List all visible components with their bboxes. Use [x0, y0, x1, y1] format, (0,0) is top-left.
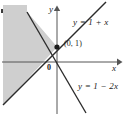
shaded-region-top-fill	[3, 5, 57, 105]
origin-label: 0	[47, 64, 51, 72]
graph-figure: y = 1 + x y = 1 − 2x (0, 1) 0 y x	[0, 0, 127, 116]
line-label-y-equals-1-minus-2x: y = 1 − 2x	[78, 82, 118, 91]
x-axis-arrowhead	[117, 59, 123, 66]
intersection-point-marker	[54, 44, 59, 49]
x-axis-label: x	[112, 64, 116, 73]
y-axis-arrowhead	[54, 6, 60, 12]
point-label-0-1: (0, 1)	[64, 40, 82, 48]
y-axis-label: y	[49, 5, 53, 14]
line-label-y-equals-1-plus-x: y = 1 + x	[73, 18, 108, 27]
